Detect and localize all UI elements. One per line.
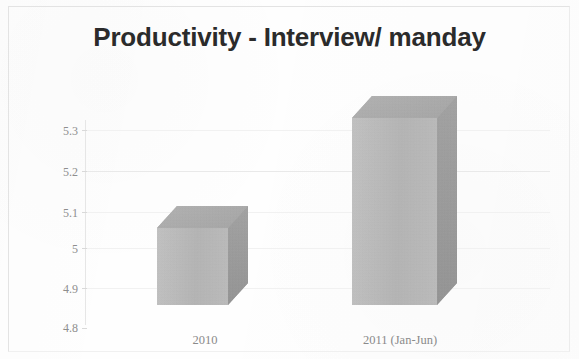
chart-screenshot: Productivity - Interview/ manday 5.3 5.2… bbox=[0, 0, 579, 359]
y-tick-label-5-0: 5 bbox=[34, 243, 78, 255]
gridline-5-1 bbox=[85, 212, 550, 213]
plot-area bbox=[85, 100, 550, 310]
gridline-5-0 bbox=[85, 248, 550, 249]
y-axis-line bbox=[85, 120, 86, 325]
bar-2011-jan-jun[interactable] bbox=[352, 96, 457, 305]
y-tick-mark-5-3 bbox=[82, 130, 87, 131]
y-tick-label-5-1: 5.1 bbox=[34, 207, 78, 219]
y-tick-label-5-2: 5.2 bbox=[34, 166, 78, 178]
bar-2010[interactable] bbox=[157, 206, 248, 305]
bar-2011-jan-jun-side-face bbox=[437, 96, 457, 305]
y-axis-labels: 5.3 5.2 5.1 5 4.9 4.8 bbox=[28, 0, 78, 359]
x-tick-label-2010: 2010 bbox=[150, 333, 260, 348]
y-tick-label-4-8: 4.8 bbox=[34, 322, 78, 334]
y-tick-mark-5-0 bbox=[82, 248, 87, 249]
y-tick-mark-4-9 bbox=[82, 288, 87, 289]
y-tick-label-4-9: 4.9 bbox=[34, 283, 78, 295]
chart-title: Productivity - Interview/ manday bbox=[0, 22, 579, 53]
gridline-5-2 bbox=[85, 171, 550, 172]
bar-2011-jan-jun-front-face bbox=[352, 118, 437, 305]
y-tick-label-5-3: 5.3 bbox=[34, 125, 78, 137]
gridline-4-9 bbox=[85, 288, 550, 289]
y-tick-mark-5-1 bbox=[82, 212, 87, 213]
x-tick-label-2011-jan-jun: 2011 (Jan-Jun) bbox=[330, 333, 470, 348]
gridline-5-3 bbox=[85, 130, 550, 131]
y-tick-mark-5-2 bbox=[82, 171, 87, 172]
bar-2010-front-face bbox=[157, 228, 228, 305]
y-tick-mark-4-8 bbox=[82, 328, 87, 329]
